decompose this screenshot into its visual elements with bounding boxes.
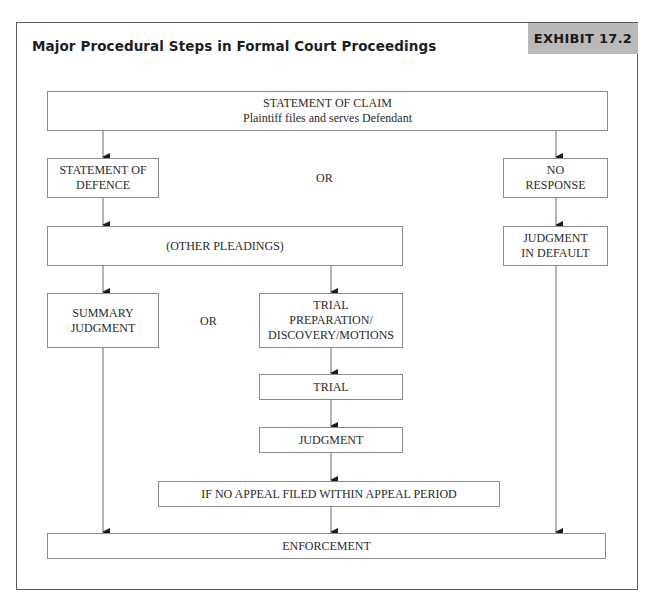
node-no-response: NO RESPONSE — [503, 158, 608, 198]
node-other-pleadings: (OTHER PLEADINGS) — [47, 226, 403, 266]
node-label: IN DEFAULT — [521, 246, 589, 261]
node-summary-judgment: SUMMARY JUDGMENT — [47, 293, 159, 348]
node-label: PREPARATION/ — [289, 313, 373, 328]
node-trial: TRIAL — [259, 374, 403, 400]
node-label: JUDGMENT — [71, 321, 136, 336]
node-label: ENFORCEMENT — [282, 539, 371, 554]
node-statement-of-claim: STATEMENT OF CLAIM Plaintiff files and s… — [47, 91, 608, 131]
node-trial-preparation: TRIAL PREPARATION/ DISCOVERY/MOTIONS — [259, 293, 403, 348]
node-label: JUDGMENT — [523, 231, 588, 246]
node-label: (OTHER PLEADINGS) — [166, 239, 284, 254]
node-label: RESPONSE — [525, 178, 585, 193]
node-enforcement: ENFORCEMENT — [47, 533, 606, 559]
node-label: STATEMENT OF — [59, 163, 146, 178]
node-statement-of-defence: STATEMENT OF DEFENCE — [47, 158, 159, 198]
node-label: TRIAL — [313, 298, 348, 313]
node-label: DEFENCE — [76, 178, 130, 193]
node-label: IF NO APPEAL FILED WITHIN APPEAL PERIOD — [201, 487, 457, 502]
node-label: JUDGMENT — [299, 433, 364, 448]
node-sublabel: Plaintiff files and serves Defendant — [243, 111, 412, 126]
or-label-middle: OR — [200, 314, 217, 329]
node-label: SUMMARY — [72, 306, 133, 321]
node-label: TRIAL — [313, 380, 348, 395]
node-no-appeal-filed: IF NO APPEAL FILED WITHIN APPEAL PERIOD — [158, 481, 500, 507]
node-judgment-in-default: JUDGMENT IN DEFAULT — [503, 226, 608, 266]
node-judgment: JUDGMENT — [259, 427, 403, 453]
or-label-top: OR — [316, 171, 333, 186]
node-label: DISCOVERY/MOTIONS — [268, 328, 394, 343]
node-label: STATEMENT OF CLAIM — [263, 96, 392, 111]
node-label: NO — [547, 163, 564, 178]
